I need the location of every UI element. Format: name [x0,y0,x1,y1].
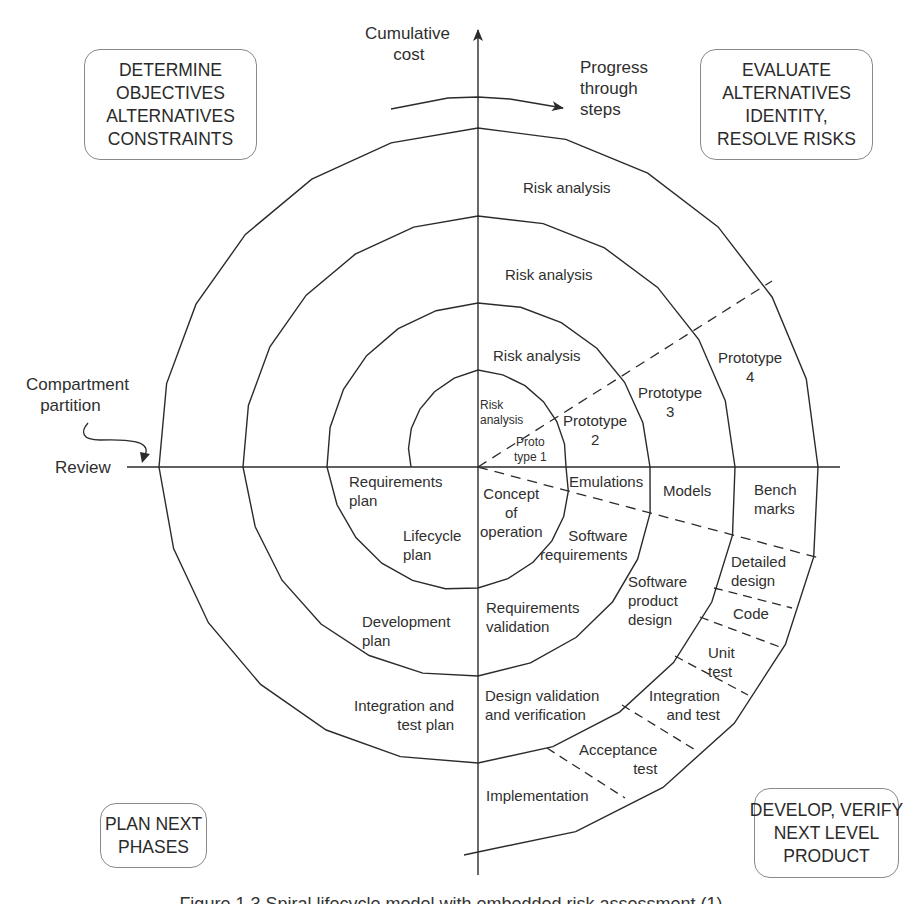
prototype-4: Prototype 4 [718,348,782,386]
prototype-1: Proto type 1 [514,435,547,465]
software-requirements: Software requirements [540,526,628,564]
unit-test: Unit test [708,643,735,681]
compartment-arrowhead-icon [140,452,150,463]
box-develop-verify: DEVELOP, VERIFY NEXT LEVEL PRODUCT [754,788,899,878]
benchmarks: Bench marks [754,480,797,518]
review-label: Review [55,457,111,478]
lifecycle-plan: Lifecycle plan [403,526,461,564]
box-evaluate-alternatives: EVALUATE ALTERNATIVES IDENTITY, RESOLVE … [700,49,873,160]
models: Models [663,481,711,500]
integration-test-plan: Integration and test plan [354,696,454,734]
risk-analysis-2: Risk analysis [493,346,581,365]
risk-analysis-4: Risk analysis [523,178,611,197]
box-determine-objectives: DETERMINE OBJECTIVES ALTERNATIVES CONSTR… [84,49,257,160]
acceptance-test: Acceptance test [579,740,657,778]
compartment-partition-label: Compartment partition [26,374,129,416]
design-validation: Design validation and verification [485,686,599,724]
requirements-validation: Requirements validation [486,598,579,636]
risk-analysis-1: Risk analysis [480,398,523,428]
software-product-design: Software product design [628,572,687,629]
implementation: Implementation [486,786,589,805]
progress-label: Progress through steps [580,57,648,120]
cumulative-cost-label: Cumulative cost [365,23,450,65]
progress-arrow-icon [391,97,563,109]
requirements-plan: Requirements plan [349,472,442,510]
prototype-2: Prototype 2 [563,411,627,449]
box-plan-next-phases: PLAN NEXT PHASES [100,803,207,868]
detailed-design: Detailed design [731,552,786,590]
concept-of-operation: Concept of operation [480,484,543,541]
caption-text: Figure 1.3 Spiral lifecycle model with e… [0,886,902,904]
prototype-3: Prototype 3 [638,383,702,421]
code: Code [733,604,769,623]
risk-analysis-3: Risk analysis [505,265,593,284]
compartment-arrow-icon [84,423,147,459]
emulations: Emulations [569,472,643,491]
integration-and-test: Integration and test [649,686,720,724]
figure-caption: Figure 1.3 Spiral lifecycle model with e… [0,886,902,904]
development-plan: Development plan [362,612,450,650]
